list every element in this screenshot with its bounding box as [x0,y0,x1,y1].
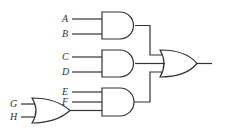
input-label-c: C [62,52,69,62]
input-label-f: F [62,97,68,107]
circuit-wiring [0,0,226,134]
input-label-g: G [10,99,17,109]
input-label-h: H [10,112,17,122]
logic-circuit-diagram: A B C D E F G H [0,0,226,134]
input-label-a: A [62,14,68,24]
or-gate-output [160,50,197,77]
and-gate-1 [102,12,134,39]
input-label-b: B [62,29,68,39]
input-label-d: D [62,67,69,77]
and-gate-3 [102,88,134,116]
and-gate-2 [102,50,134,77]
wire-and1-out [135,26,163,56]
wire-and3-out [134,72,163,102]
